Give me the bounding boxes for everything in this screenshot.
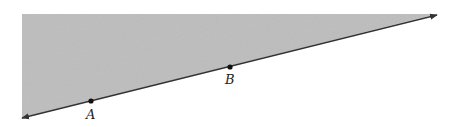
point-b <box>227 64 232 69</box>
label-b: B <box>224 72 235 87</box>
half-plane-diagram: A B <box>0 0 459 127</box>
label-a: A <box>85 107 95 122</box>
point-a <box>88 98 93 103</box>
